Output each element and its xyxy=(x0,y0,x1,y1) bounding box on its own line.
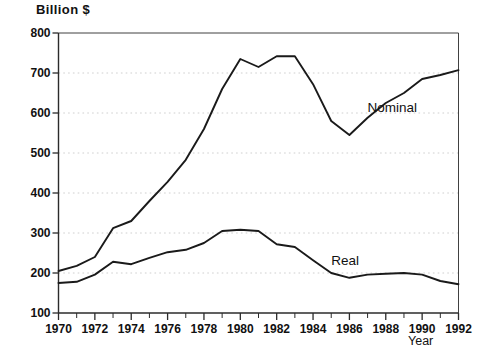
y-tick-label-700: 700 xyxy=(17,67,51,79)
series-line-real xyxy=(59,230,459,284)
data-lines xyxy=(59,56,459,284)
series-line-nominal xyxy=(59,56,459,271)
series-label-real: Real xyxy=(331,253,359,268)
y-tick-label-800: 800 xyxy=(17,27,51,39)
y-tick-label-200: 200 xyxy=(17,267,51,279)
plot-frame xyxy=(59,33,459,313)
chart-figure: Billion $ Year 100200300400500600700800 … xyxy=(0,0,489,359)
series-label-nominal: Nominal xyxy=(368,100,418,115)
y-tick-label-300: 300 xyxy=(17,227,51,239)
y-tick-label-400: 400 xyxy=(17,187,51,199)
plot-area xyxy=(0,0,489,359)
y-tick-label-600: 600 xyxy=(17,107,51,119)
y-tick-label-500: 500 xyxy=(17,147,51,159)
y-tick-label-100: 100 xyxy=(17,307,51,319)
x-axis-ticks xyxy=(59,313,459,320)
x-tick-label-1992: 1992 xyxy=(436,323,482,335)
